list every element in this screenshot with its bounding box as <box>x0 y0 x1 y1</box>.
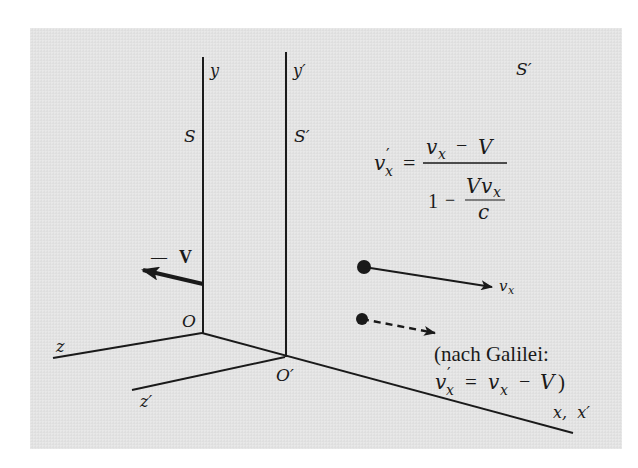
svg-text:x: x <box>508 284 515 297</box>
svg-text:x: x <box>446 382 454 398</box>
particle-velocity-arrow <box>364 267 492 287</box>
svg-text:1: 1 <box>428 190 438 212</box>
origin-O-label: O <box>182 311 196 331</box>
frame-S-prime-label: S′ <box>294 126 310 146</box>
svg-text:v: v <box>481 174 493 198</box>
svg-text:x: x <box>493 184 501 200</box>
z-axis-S-prime <box>132 357 285 390</box>
svg-text:(nach Galilei:: (nach Galilei: <box>434 342 549 366</box>
z-axis-S <box>53 333 202 358</box>
svg-text:−: − <box>519 370 530 392</box>
svg-text:′: ′ <box>447 364 451 383</box>
x-axis-label: x, x′ <box>553 403 590 422</box>
frame-velocity-symbol: V <box>179 247 192 267</box>
z-axis-label: z <box>55 337 65 356</box>
galilei-note: (nach Galilei: v ′ x = v x − V ) <box>434 342 565 398</box>
z-prime-axis-label: z′ <box>139 392 152 411</box>
frame-velocity-sign: — <box>150 248 168 265</box>
svg-text:x: x <box>500 382 508 398</box>
frame-velocity-arrow <box>143 270 203 284</box>
svg-text:=: = <box>465 370 477 394</box>
svg-text:v: v <box>426 135 438 159</box>
origin-O-prime-label: O′ <box>276 365 294 385</box>
y-axis-label: y <box>209 61 220 80</box>
particle-velocity-label: v x <box>499 277 515 297</box>
galilei-velocity-arrow <box>362 319 435 333</box>
svg-text:x: x <box>438 146 446 162</box>
svg-text:c: c <box>478 200 489 224</box>
svg-text:V: V <box>540 370 557 394</box>
relativistic-velocity-formula: v ′ x = v x − V 1 − V v x c <box>374 134 507 224</box>
svg-text:v: v <box>488 370 500 394</box>
reference-frames-diagram: y y′ S S′ S′ O O′ z z′ x, x′ — V v x v ′… <box>0 0 638 468</box>
svg-text:−: − <box>456 134 467 156</box>
svg-text:−: − <box>445 190 455 210</box>
y-prime-axis-label: y′ <box>292 61 306 80</box>
svg-text:x: x <box>385 163 393 179</box>
svg-text:=: = <box>403 150 415 175</box>
svg-text:V: V <box>478 135 495 159</box>
corner-frame-label: S′ <box>516 59 532 79</box>
svg-text:v: v <box>499 277 508 295</box>
svg-text:′: ′ <box>386 145 390 164</box>
svg-text:): ) <box>558 370 565 394</box>
frame-S-label: S <box>184 126 196 146</box>
